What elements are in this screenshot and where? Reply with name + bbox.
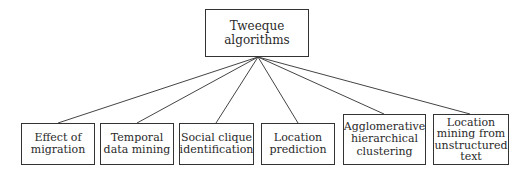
child-node-location-prediction: Location prediction	[261, 123, 335, 165]
edge-effect-of-migration	[58, 57, 258, 123]
child-node-agglomerative-clustering: Agglomerative hierarchical clustering	[343, 114, 426, 165]
root-node-label: Tweeque algorithms	[224, 19, 290, 47]
edge-location-prediction	[258, 57, 298, 123]
child-node-location-mining-text: Location mining from unstructured text	[433, 114, 509, 165]
child-node-social-clique-identification: Social clique identification	[179, 123, 254, 165]
child-node-effect-of-migration: Effect of migration	[21, 123, 95, 165]
child-node-label: Agglomerative hierarchical clustering	[344, 121, 426, 159]
child-node-label: Location prediction	[269, 132, 326, 157]
child-node-temporal-data-mining: Temporal data mining	[100, 123, 174, 165]
edge-temporal-data-mining	[137, 57, 258, 123]
child-node-label: Effect of migration	[31, 132, 85, 157]
root-node: Tweeque algorithms	[205, 9, 309, 57]
child-node-label: Location mining from unstructured text	[434, 117, 507, 163]
child-node-label: Temporal data mining	[104, 132, 171, 157]
child-node-label: Social clique identification	[180, 132, 254, 157]
edge-social-clique-identification	[216, 57, 258, 123]
